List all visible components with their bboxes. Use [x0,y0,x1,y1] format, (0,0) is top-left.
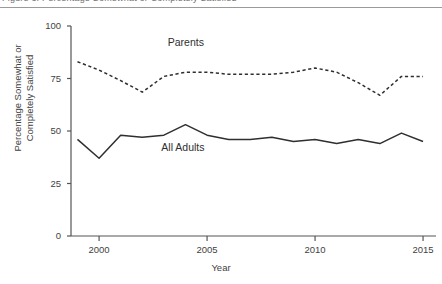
x-axis-tick-label: 2010 [292,244,338,255]
x-axis-tick-label: 2000 [76,244,122,255]
series-line-parents [77,62,423,96]
x-axis-tick-label: 2005 [184,244,230,255]
axis-layer [67,26,436,241]
y-axis-tick-label: 50 [27,125,61,136]
figure-container: Figure 3. Percentage Somewhat or Complet… [0,0,442,284]
series-annotation-all-adults: All Adults [161,141,204,153]
y-axis-tick-label: 25 [27,178,61,189]
y-axis-tick-label: 0 [27,230,61,241]
y-axis-title: Percentage Somewhat or Completely Satisf… [12,30,36,166]
y-axis-tick-label: 100 [27,20,61,31]
y-axis-tick-label: 75 [27,73,61,84]
x-axis-title: Year [0,262,442,273]
series-annotation-parents: Parents [168,36,204,48]
series-line-all-adults [77,125,423,159]
x-axis-tick-label: 2015 [400,244,442,255]
line-chart-plot [0,0,442,284]
series-layer [77,62,423,159]
